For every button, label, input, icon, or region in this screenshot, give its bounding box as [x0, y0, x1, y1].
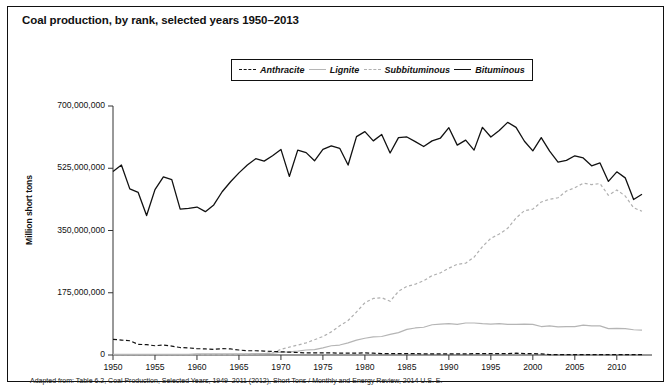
y-axis-tick-label: 350,000,000	[35, 225, 105, 235]
x-axis-tick-label: 1990	[429, 362, 469, 372]
y-axis-tick-label: 525,000,000	[35, 162, 105, 172]
series-line-subbituminous	[113, 183, 642, 354]
series-line-lignite	[113, 323, 642, 354]
x-axis-tick-label: 2000	[513, 362, 553, 372]
x-axis-tick-label: 2005	[555, 362, 595, 372]
x-axis-tick-label: 1995	[471, 362, 511, 372]
chart-footnote: Adapted from: Table 6.2, Coal Production…	[30, 377, 442, 384]
y-axis-tick-label: 700,000,000	[35, 100, 105, 110]
x-axis-tick-label: 1960	[177, 362, 217, 372]
x-axis-tick-label: 1985	[387, 362, 427, 372]
x-axis-tick-label: 1950	[93, 362, 133, 372]
x-axis-tick-label: 1970	[261, 362, 301, 372]
series-line-anthracite	[113, 339, 642, 354]
x-axis-tick-label: 1975	[303, 362, 343, 372]
x-axis-tick-label: 1980	[345, 362, 385, 372]
x-axis-tick-label: 1965	[219, 362, 259, 372]
y-axis-title: Million short tons	[24, 155, 34, 265]
x-axis-tick-label: 1955	[135, 362, 175, 372]
chart-canvas	[0, 0, 672, 386]
series-line-bituminous	[113, 122, 642, 215]
y-axis-tick-label: 0	[35, 349, 105, 359]
chart-page: Coal production, by rank, selected years…	[0, 0, 672, 386]
y-axis-tick-label: 175,000,000	[35, 287, 105, 297]
plot-area: Million short tons 0175,000,000350,000,0…	[0, 0, 672, 386]
x-axis-tick-label: 2010	[597, 362, 637, 372]
